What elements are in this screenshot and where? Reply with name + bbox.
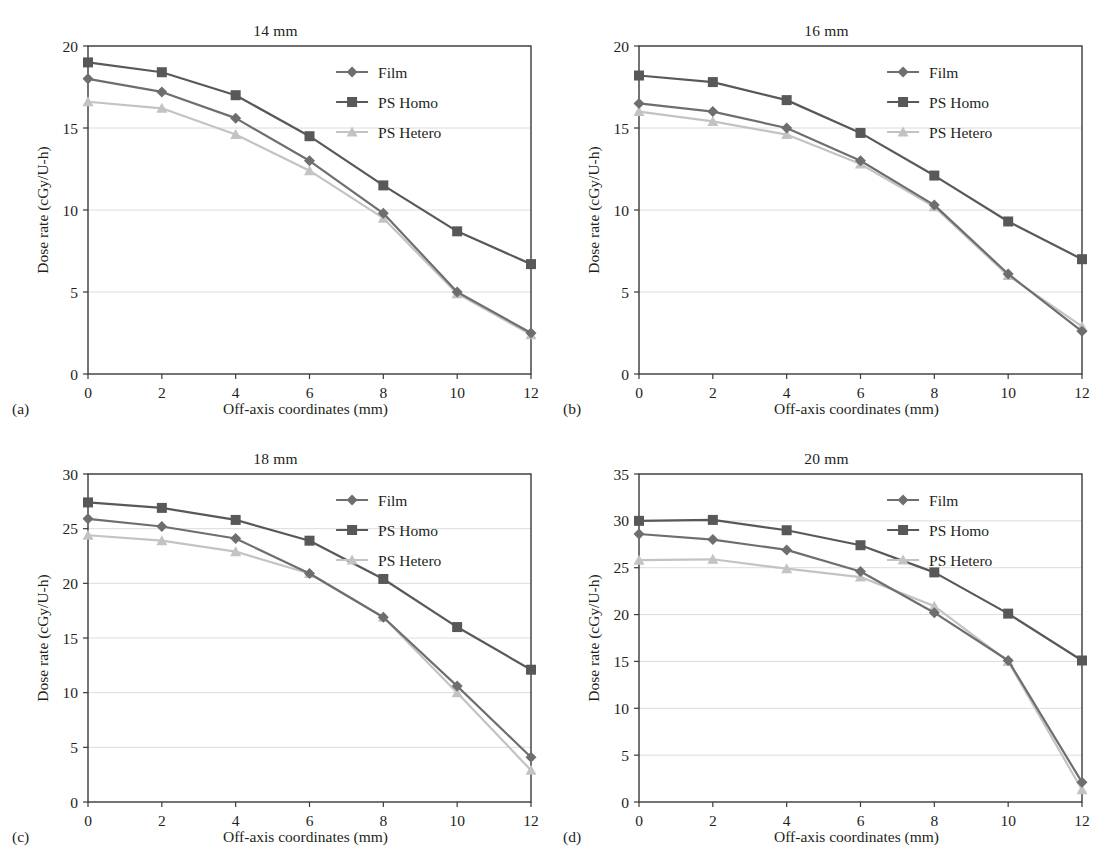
x-tick-label: 12 [523,384,539,401]
x-tick-label: 4 [783,812,791,829]
y-tick-label: 0 [621,366,629,383]
y-tick-label: 30 [614,512,630,529]
data-point-marker [856,128,866,138]
legend-label: PS Homo [929,522,989,539]
series-line-ps-hetero [639,112,1082,327]
data-point-marker [929,171,939,181]
data-point-marker [1077,655,1087,665]
legend-label: PS Homo [929,94,989,111]
data-point-marker [526,259,536,269]
data-point-marker [305,536,315,546]
data-point-marker [1077,777,1088,788]
y-tick-label: 30 [63,466,79,483]
legend-marker [347,525,357,535]
data-point-marker [1003,609,1013,619]
x-tick-label: 12 [1074,384,1090,401]
panel-d-x-axis-title: Off-axis coordinates (mm) [621,828,1092,846]
data-point-marker [378,180,388,190]
figure-root: 14 mm 05101520024681012FilmPS HomoPS Het… [0,0,1102,856]
x-tick-label: 6 [857,384,865,401]
y-tick-label: 20 [614,38,630,55]
legend-label: Film [378,64,407,81]
panel-b-plot: 05101520024681012FilmPS HomoPS Hetero [551,0,1102,428]
legend-marker [347,495,358,506]
panel-d-plot: 05101520253035024681012FilmPS HomoPS Het… [551,428,1102,856]
data-point-marker [231,90,241,100]
data-point-marker [782,525,792,535]
y-tick-label: 20 [614,606,630,623]
data-point-marker [856,540,866,550]
y-tick-label: 10 [63,684,79,701]
data-point-marker [230,113,241,124]
data-point-marker [929,567,939,577]
y-tick-label: 0 [70,366,78,383]
data-point-marker [708,77,718,87]
panel-b-label: (b) [563,400,581,418]
series-line-ps-homo [88,502,531,669]
legend-label: PS Hetero [378,552,442,569]
legend-label: PS Homo [378,94,438,111]
data-point-marker [634,528,645,539]
x-tick-label: 0 [84,384,92,401]
legend-marker [898,495,909,506]
data-point-marker [157,503,167,513]
x-tick-label: 4 [783,384,791,401]
x-tick-label: 10 [1000,384,1016,401]
data-point-marker [83,57,93,67]
panel-c-x-axis-title: Off-axis coordinates (mm) [70,828,541,846]
panel-c-y-axis-title: Dose rate (cGy/U-h) [34,574,52,701]
legend-marker [898,67,909,78]
x-tick-label: 6 [306,384,314,401]
data-point-marker [708,515,718,525]
y-tick-label: 0 [70,794,78,811]
data-point-marker [855,155,866,166]
panel-d-label: (d) [563,828,581,846]
y-tick-label: 20 [63,575,79,592]
data-point-marker [634,98,645,109]
legend-label: Film [929,64,958,81]
y-tick-label: 15 [63,120,79,137]
chart-panel-b: 16 mm 05101520024681012FilmPS HomoPS Het… [551,0,1102,428]
data-point-marker [634,516,644,526]
y-tick-label: 15 [614,120,630,137]
data-point-marker [304,165,315,175]
panel-b-x-axis-title: Off-axis coordinates (mm) [621,400,1092,418]
legend-label: PS Homo [378,522,438,539]
panel-a-y-axis-title: Dose rate (cGy/U-h) [34,146,52,273]
data-point-marker [781,544,792,555]
x-tick-label: 4 [232,384,240,401]
data-point-marker [83,497,93,507]
legend-marker [347,97,357,107]
y-tick-label: 10 [63,202,79,219]
data-point-marker [1077,254,1087,264]
chart-panel-c: 18 mm 051015202530024681012FilmPS HomoPS… [0,428,551,856]
y-tick-label: 10 [614,202,630,219]
panel-c-label: (c) [12,828,29,846]
data-point-marker [230,533,241,544]
x-tick-label: 8 [379,812,387,829]
data-point-marker [452,226,462,236]
x-tick-label: 0 [84,812,92,829]
data-point-marker [707,534,718,545]
y-tick-label: 5 [70,739,78,756]
panel-d-y-axis-title: Dose rate (cGy/U-h) [585,574,603,701]
panel-a-plot: 05101520024681012FilmPS HomoPS Hetero [0,0,551,428]
chart-panel-a: 14 mm 05101520024681012FilmPS HomoPS Het… [0,0,551,428]
y-tick-label: 5 [621,747,629,764]
x-tick-label: 8 [930,812,938,829]
panel-c-plot: 051015202530024681012FilmPS HomoPS Heter… [0,428,551,856]
legend-label: PS Hetero [378,124,442,141]
x-tick-label: 4 [232,812,240,829]
data-point-marker [156,521,167,532]
y-tick-label: 20 [63,38,79,55]
x-tick-label: 8 [930,384,938,401]
x-tick-label: 0 [635,812,643,829]
x-tick-label: 10 [449,384,465,401]
data-point-marker [782,95,792,105]
y-tick-label: 15 [63,630,79,647]
data-point-marker [157,67,167,77]
panel-a-x-axis-title: Off-axis coordinates (mm) [70,400,541,418]
panel-a-label: (a) [12,400,29,418]
legend-label: PS Hetero [929,552,993,569]
y-tick-label: 0 [621,794,629,811]
